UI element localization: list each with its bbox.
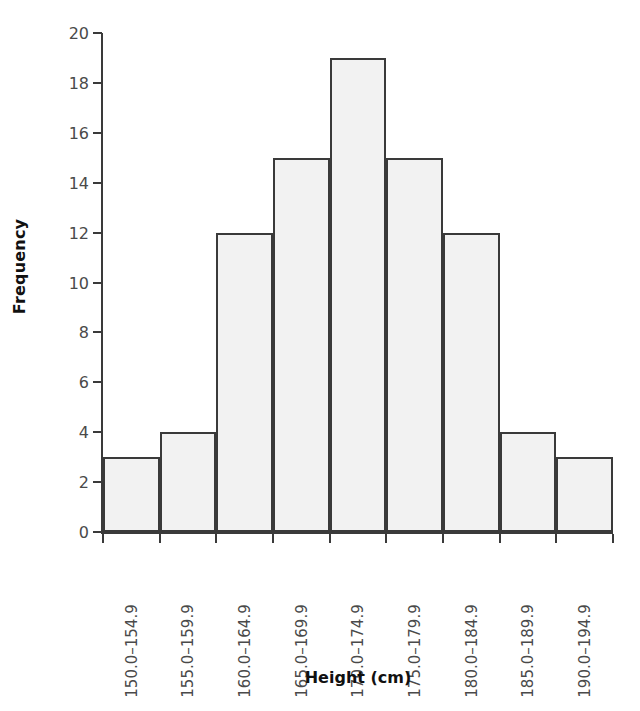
x-axis-tick	[272, 534, 274, 543]
y-axis-tick-label: 0	[29, 523, 89, 542]
x-axis-tick	[385, 534, 387, 543]
x-axis-tick-label: 150.0–154.9	[103, 545, 160, 660]
y-axis-title-text: Frequency	[11, 218, 30, 313]
y-axis-tick	[93, 82, 102, 84]
y-axis-tick	[93, 232, 102, 234]
y-axis-tick-label: 12	[29, 223, 89, 242]
x-axis-tick-label: 190.0–194.9	[556, 545, 613, 660]
y-axis-tick	[93, 481, 102, 483]
y-axis-tick-label: 4	[29, 423, 89, 442]
y-axis-tick	[93, 182, 102, 184]
y-axis-tick	[93, 381, 102, 383]
x-axis-tick	[215, 534, 217, 543]
y-axis-tick-label: 6	[29, 373, 89, 392]
x-axis-tick-label: 165.0–169.9	[273, 545, 330, 660]
y-axis-tick-label: 10	[29, 273, 89, 292]
x-axis-spine	[101, 532, 613, 534]
histogram-bar	[443, 233, 500, 532]
x-axis-tick-label: 185.0–189.9	[500, 545, 557, 660]
histogram-bar	[160, 432, 217, 532]
y-axis-tick-label: 18	[29, 73, 89, 92]
y-axis-tick	[93, 282, 102, 284]
x-axis-tick	[159, 534, 161, 543]
plot-area	[103, 33, 613, 532]
y-axis-tick-label: 8	[29, 323, 89, 342]
histogram-bar	[216, 233, 273, 532]
x-axis-tick-label: 160.0–164.9	[216, 545, 273, 660]
histogram-bar	[103, 457, 160, 532]
x-axis-tick	[499, 534, 501, 543]
histogram-bar	[500, 432, 557, 532]
y-axis-tick	[93, 32, 102, 34]
x-axis-title: Height (cm)	[103, 668, 613, 687]
y-axis-tick	[93, 531, 102, 533]
y-axis-tick-label: 2	[29, 473, 89, 492]
y-axis-tick	[93, 132, 102, 134]
x-axis-tick	[102, 534, 104, 543]
x-axis-tick-label: 170.0–174.9	[330, 545, 387, 660]
x-axis-tick-labels: 150.0–154.9155.0–159.9160.0–164.9165.0–1…	[103, 545, 613, 660]
x-axis-tick	[329, 534, 331, 543]
y-axis-tick-labels: 02468101214161820	[29, 33, 89, 532]
histogram-bar	[386, 158, 443, 532]
x-axis-tick	[612, 534, 614, 543]
x-axis-tick	[442, 534, 444, 543]
x-axis-tick-label: 175.0–179.9	[386, 545, 443, 660]
x-axis-tick-label: 155.0–159.9	[160, 545, 217, 660]
y-axis-tick	[93, 331, 102, 333]
x-axis-tick-label: 180.0–184.9	[443, 545, 500, 660]
y-axis-tick-label: 20	[29, 24, 89, 43]
histogram-bar	[556, 457, 613, 532]
histogram-bar	[273, 158, 330, 532]
y-axis-tick-label: 14	[29, 173, 89, 192]
x-axis-tick	[555, 534, 557, 543]
histogram-figure: Frequency 02468101214161820 150.0–154.91…	[0, 0, 640, 711]
histogram-bar	[330, 58, 387, 532]
y-axis-tick-label: 16	[29, 123, 89, 142]
y-axis-tick	[93, 431, 102, 433]
